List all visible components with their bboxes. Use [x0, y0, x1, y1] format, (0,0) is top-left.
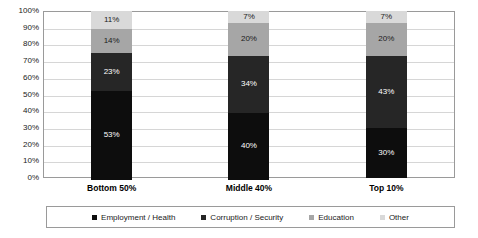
- legend-item[interactable]: Corruption / Security: [201, 213, 283, 222]
- y-axis-tick-label: 70%: [0, 57, 39, 65]
- gridline: [44, 162, 454, 163]
- gridline: [44, 96, 454, 97]
- category-label: Middle 40%: [180, 181, 317, 195]
- legend-item[interactable]: Education: [309, 213, 354, 222]
- y-axis-tick-label: 0%: [0, 174, 39, 182]
- legend-label: Employment / Health: [101, 213, 175, 222]
- y-axis-tick-label: 40%: [0, 107, 39, 115]
- gridline: [44, 146, 454, 147]
- y-axis-tick-label: 50%: [0, 91, 39, 99]
- y-axis-tick-label: 20%: [0, 141, 39, 149]
- legend-item[interactable]: Employment / Health: [92, 213, 175, 222]
- plot-area: [43, 11, 455, 178]
- gridline: [44, 62, 454, 63]
- y-axis-tick-label: 90%: [0, 24, 39, 32]
- y-axis-tick-label: 10%: [0, 157, 39, 165]
- stacked-bar-chart: 0%10%20%30%40%50%60%70%80%90%100% 11%14%…: [0, 0, 478, 238]
- gridline: [44, 129, 454, 130]
- y-axis-tick-label: 60%: [0, 74, 39, 82]
- legend-label: Education: [318, 213, 354, 222]
- legend-swatch-icon: [201, 215, 206, 220]
- legend-label: Corruption / Security: [210, 213, 283, 222]
- gridline: [44, 112, 454, 113]
- legend-label: Other: [389, 213, 409, 222]
- chart-legend: Employment / HealthCorruption / Security…: [46, 206, 455, 228]
- category-axis: Bottom 50%Middle 40%Top 10%: [43, 181, 455, 195]
- gridline: [44, 45, 454, 46]
- y-axis-tick-label: 80%: [0, 40, 39, 48]
- y-axis: 0%10%20%30%40%50%60%70%80%90%100%: [0, 11, 39, 178]
- gridlines: [44, 12, 454, 177]
- y-axis-tick-label: 100%: [0, 7, 39, 15]
- y-axis-tick-label: 30%: [0, 124, 39, 132]
- legend-swatch-icon: [92, 215, 97, 220]
- legend-swatch-icon: [380, 215, 385, 220]
- legend-item[interactable]: Other: [380, 213, 409, 222]
- category-label: Bottom 50%: [43, 181, 180, 195]
- gridline: [44, 29, 454, 30]
- gridline: [44, 79, 454, 80]
- legend-swatch-icon: [309, 215, 314, 220]
- category-label: Top 10%: [318, 181, 455, 195]
